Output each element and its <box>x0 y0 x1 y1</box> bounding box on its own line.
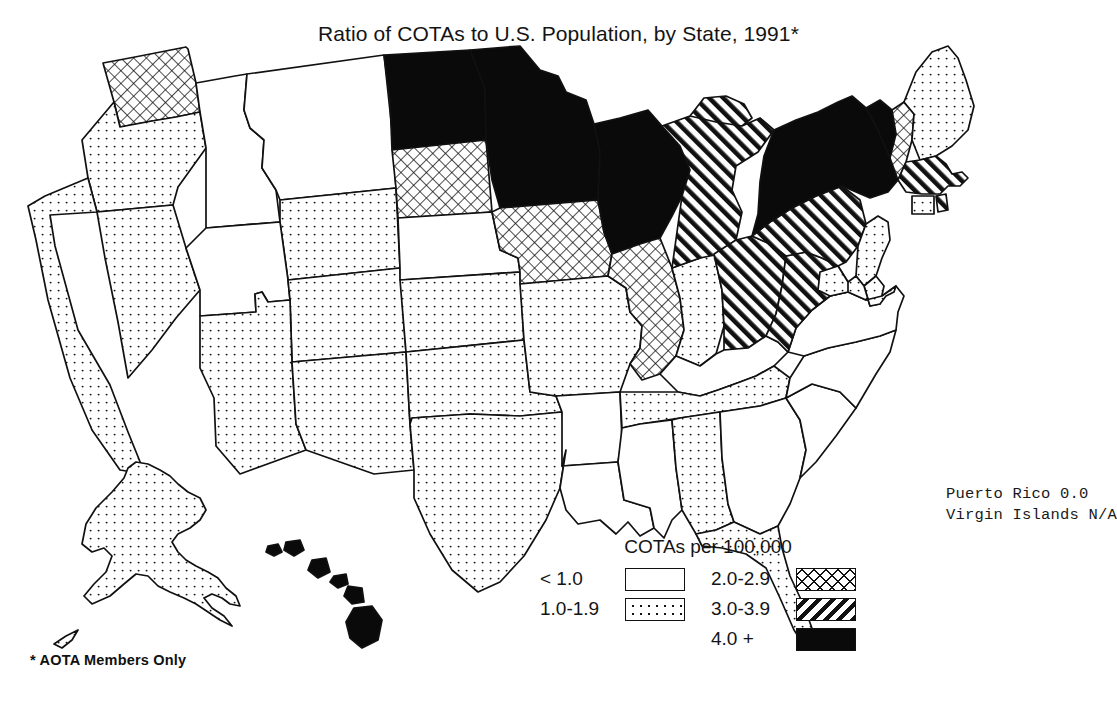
legend-label: 3.0-3.9 <box>711 598 787 620</box>
legend-swatch-diagonal <box>796 598 856 621</box>
legend-item-4-0-plus: 4.0 + <box>711 624 856 654</box>
legend-label: 4.0 + <box>711 628 787 650</box>
territory-virgin-islands: Virgin Islands N/A <box>946 505 1117 526</box>
state-KS <box>400 272 524 352</box>
legend-label: 2.0-2.9 <box>711 568 787 590</box>
map-legend: COTAs per 100,000 < 1.0 2.0-2.9 1.0-1.9 <box>540 536 870 654</box>
legend-item-1-0-1-9: 1.0-1.9 <box>540 594 685 624</box>
legend-title: COTAs per 100,000 <box>568 536 848 558</box>
state-MA <box>898 156 968 194</box>
map-figure: Ratio of COTAs to U.S. Population, by St… <box>0 0 1117 705</box>
state-ND <box>384 50 486 150</box>
state-AK <box>54 462 240 648</box>
territory-note: Puerto Rico 0.0 Virgin Islands N/A <box>946 484 1117 526</box>
legend-item-3-0-3-9: 3.0-3.9 <box>711 594 856 624</box>
state-HI <box>266 540 382 648</box>
state-AZ <box>200 292 306 474</box>
legend-entries: < 1.0 2.0-2.9 1.0-1.9 3.0-3.9 <box>540 564 870 654</box>
state-CO <box>288 268 406 362</box>
legend-item-lt-1: < 1.0 <box>540 564 685 594</box>
state-NV <box>97 205 200 378</box>
legend-swatch-black <box>796 628 856 651</box>
state-ME <box>904 46 974 160</box>
state-MO <box>520 276 642 396</box>
territory-puerto-rico: Puerto Rico 0.0 <box>946 484 1117 505</box>
state-GA <box>720 398 806 534</box>
legend-label: < 1.0 <box>540 568 616 590</box>
legend-swatch-dot <box>625 598 685 621</box>
state-SD <box>392 140 492 218</box>
legend-swatch-white <box>625 568 685 591</box>
state-WY <box>280 188 400 280</box>
legend-swatch-crosshatch <box>796 568 856 591</box>
legend-row: < 1.0 2.0-2.9 <box>540 564 870 594</box>
state-NM <box>292 352 414 474</box>
footnote: * AOTA Members Only <box>30 652 186 668</box>
state-RI <box>936 194 948 212</box>
legend-label: 1.0-1.9 <box>540 598 616 620</box>
state-CT <box>912 196 934 214</box>
legend-row: 4.0 + <box>540 624 870 654</box>
legend-item-2-0-2-9: 2.0-2.9 <box>711 564 856 594</box>
legend-row: 1.0-1.9 3.0-3.9 <box>540 594 870 624</box>
